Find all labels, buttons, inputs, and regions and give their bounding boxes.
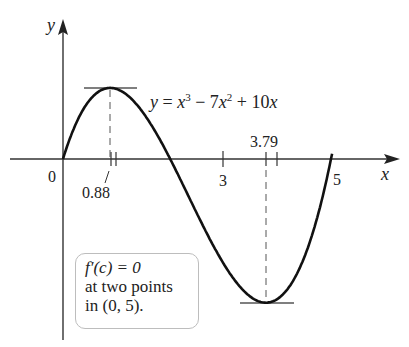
label-0.88: 0.88 (82, 184, 110, 201)
origin-label: 0 (48, 168, 56, 185)
label-3.79: 3.79 (250, 133, 278, 150)
annotation-line-3: in (0, 5). (85, 296, 198, 315)
equation-label: y = x3 − 7x2 + 10x (148, 91, 277, 112)
tick-label-5: 5 (333, 171, 341, 188)
graph-canvas: y x 0 3 5 0.88 3.79 y = x3 − 7x2 + 10x (0, 0, 409, 347)
y-axis-label: y (45, 15, 55, 35)
annotation-line-2: at two points (85, 277, 198, 296)
x-axis-label: x (380, 164, 389, 184)
annotation-box: f′(c) = 0 at two points in (0, 5). (75, 253, 199, 329)
annotation-line-1: f′(c) = 0 (85, 258, 198, 277)
tick-label-3: 3 (219, 172, 227, 189)
leader-0.88 (105, 171, 109, 183)
